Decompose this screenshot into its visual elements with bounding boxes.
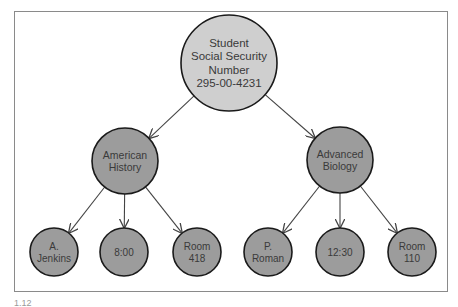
node-label: 295-00-4231 — [196, 77, 261, 89]
node-label: History — [109, 161, 142, 173]
node-label: American — [103, 149, 148, 161]
node-label: Student — [209, 37, 249, 49]
node-label: P. — [264, 241, 272, 252]
node-label: Room — [399, 241, 426, 252]
node-label: 8:00 — [114, 247, 134, 258]
node-label: Social Security — [191, 50, 267, 62]
edge-advanced-biology-to-p-roman — [283, 186, 320, 233]
node-label: 110 — [404, 253, 420, 264]
node-room-110: Room110 — [388, 228, 436, 276]
node-time-800: 8:00 — [100, 228, 148, 276]
tree-diagram: StudentSocial SecurityNumber295-00-4231A… — [0, 0, 458, 307]
edge-root-to-american-history — [149, 96, 194, 138]
edge-root-to-advanced-biology — [265, 95, 315, 139]
node-label: Roman — [252, 253, 284, 264]
edge-advanced-biology-to-room-110 — [360, 186, 397, 233]
node-room-418: Room418 — [173, 228, 221, 276]
edge-american-history-to-a-jenkins — [69, 187, 105, 233]
node-root: StudentSocial SecurityNumber295-00-4231 — [181, 15, 277, 111]
node-label: Number — [209, 64, 250, 76]
node-label: Room — [184, 241, 211, 252]
nodes: StudentSocial SecurityNumber295-00-4231A… — [30, 15, 436, 276]
node-label: Advanced — [317, 148, 364, 160]
node-time-1230: 12:30 — [316, 228, 364, 276]
node-label: 12:30 — [327, 247, 352, 258]
figure-caption: 1.12 — [14, 298, 32, 307]
node-label: Biology — [323, 160, 358, 172]
edge-american-history-to-room-418 — [145, 187, 182, 233]
node-label: 418 — [189, 253, 206, 264]
node-advanced-biology: AdvancedBiology — [307, 127, 373, 193]
node-label: Jenkins — [37, 253, 71, 264]
node-p-roman: P.Roman — [244, 228, 292, 276]
node-label: A. — [49, 241, 58, 252]
node-american-history: AmericanHistory — [92, 128, 158, 194]
node-a-jenkins: A.Jenkins — [30, 228, 78, 276]
